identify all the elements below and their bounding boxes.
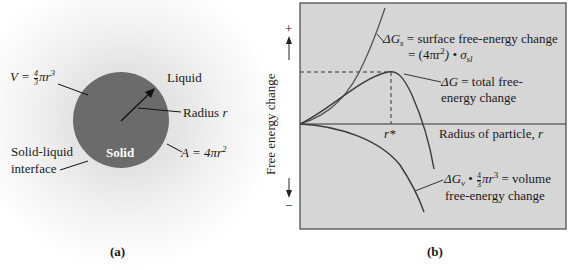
- caption-b: (b): [427, 245, 443, 259]
- x-axis-label: Radius of particle, r: [439, 127, 543, 141]
- dGv-fraction: 43: [477, 172, 481, 189]
- dGs-formula: = (4πr: [408, 47, 440, 62]
- frac-num: 4: [477, 172, 481, 180]
- dGv-symbol: ΔG: [444, 171, 461, 186]
- x-axis-var: r: [538, 126, 543, 141]
- y-axis-label: Free energy change: [263, 73, 279, 175]
- dGv-mid: •: [465, 171, 476, 186]
- arrow-up-icon: [286, 36, 292, 44]
- dGv-tail: πr: [482, 171, 494, 186]
- dGv-label-line1: ΔGv • 43πr3 = volume: [444, 172, 551, 189]
- x-axis-text: Radius of particle,: [439, 126, 538, 141]
- dGs-label-line2: = (4πr2) • σsl: [408, 48, 473, 62]
- y-minus-sign: −: [285, 199, 292, 213]
- dG-label-line2: energy change: [441, 91, 516, 105]
- dGs-symbol: ΔG: [383, 31, 400, 46]
- dGs-sigma-sub: sl: [467, 54, 473, 64]
- dGv-label-line2: free-energy change: [445, 189, 545, 203]
- dGv-end: = volume: [498, 171, 551, 186]
- dG-symbol: ΔG: [441, 74, 458, 89]
- dG-label-line1: ΔG = total free-: [441, 75, 523, 89]
- dGs-tail: ) • σ: [445, 47, 467, 62]
- dG-text: = total free-: [458, 74, 523, 89]
- arrow-down-icon: [286, 190, 292, 198]
- y-plus-sign: +: [285, 22, 292, 36]
- critical-radius-label: r*: [384, 127, 396, 141]
- dGs-text: = surface free-energy change: [404, 31, 558, 46]
- dGs-label-line1: ΔGs = surface free-energy change: [383, 32, 558, 46]
